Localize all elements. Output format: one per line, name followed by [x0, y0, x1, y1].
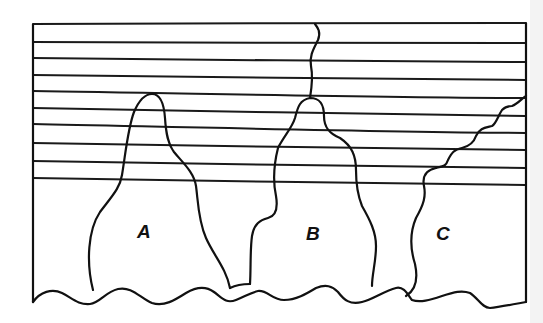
grain-c-label: C — [436, 223, 450, 244]
layer-line-1 — [33, 23, 526, 24]
layer-line-7 — [33, 124, 526, 133]
grain-b-boundary — [250, 98, 376, 286]
grain-c-boundary — [406, 168, 436, 296]
layer-lines — [33, 23, 526, 185]
layer-line-3 — [33, 58, 526, 62]
grain-b-label: B — [306, 223, 320, 244]
layer-line-4 — [33, 75, 526, 80]
grain-a-label: A — [136, 221, 151, 242]
grain-diagram: A B C — [0, 0, 543, 323]
layer-line-6 — [33, 108, 526, 116]
base-boundary — [33, 286, 526, 308]
layer-line-10 — [33, 178, 526, 185]
layer-line-9 — [33, 161, 526, 168]
page-edge-shade — [530, 0, 543, 323]
layer-line-5 — [33, 91, 526, 98]
grain-a-boundary — [89, 94, 230, 290]
layer-line-2 — [33, 42, 526, 43]
grain-ab-divider — [230, 284, 250, 288]
